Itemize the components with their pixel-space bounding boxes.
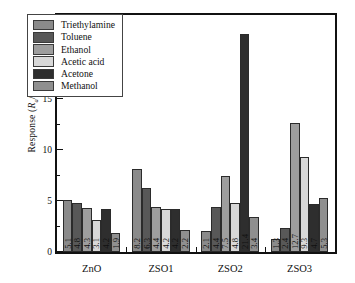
- bar-value-label: 2.4: [280, 238, 290, 249]
- legend-swatch-icon: [33, 69, 54, 80]
- bar-zso3-ethanol: 12.7: [290, 123, 300, 252]
- bar-zno-toluene: 4.8: [72, 203, 82, 252]
- y-tick-label: 10: [43, 145, 53, 155]
- x-axis-label-zso2: ZSO2: [218, 263, 243, 274]
- bar-zso3-methanol: 5.3: [319, 198, 329, 252]
- legend-item-ethanol: Ethanol: [33, 43, 115, 55]
- x-axis-label-zso1: ZSO1: [148, 263, 173, 274]
- bar-value-label: 8.2: [132, 238, 142, 249]
- bar-zso1-toluene: 6.3: [142, 188, 152, 252]
- bar-value-label: 2.1: [201, 238, 211, 249]
- bar-group-zso1: 8.26.34.44.24.22.2ZSO1: [126, 15, 195, 252]
- bar-value-label: 4.7: [309, 238, 319, 249]
- bar-value-label: 1.9: [111, 238, 121, 249]
- bar-value-label: 4.8: [72, 238, 82, 249]
- bar-value-label: 9.3: [299, 238, 309, 249]
- bar-zso2-acetic-acid: 4.8: [230, 203, 240, 252]
- bar-zso2-ethanol: 7.5: [221, 176, 231, 252]
- legend-item-methanol: Methanol: [33, 80, 115, 92]
- bar-group-zso3: 1.32.412.79.34.75.3ZSO3: [265, 15, 334, 252]
- bar-zso3-triethylamine: 1.3: [271, 239, 281, 252]
- legend-label: Acetic acid: [61, 57, 104, 67]
- bar-zso3-acetone: 4.7: [309, 204, 319, 252]
- bar-zso1-methanol: 2.2: [180, 230, 190, 252]
- bar-group-zso2: 2.14.47.54.821.43.4ZSO2: [196, 15, 265, 252]
- bar-zno-acetone: 4.2: [101, 209, 111, 252]
- x-axis-label-zso3: ZSO3: [287, 263, 312, 274]
- bar-value-label: 3.1: [91, 238, 101, 249]
- bar-value-label: 4.8: [230, 238, 240, 249]
- legend-label: Ethanol: [61, 45, 91, 55]
- bar-value-label: 5.3: [319, 238, 329, 249]
- legend-label: Triethylamine: [61, 20, 115, 30]
- legend-swatch-icon: [33, 20, 54, 31]
- legend-item-acetic-acid: Acetic acid: [33, 56, 115, 68]
- bar-value-label: 4.4: [151, 238, 161, 249]
- bar-zso3-toluene: 2.4: [280, 228, 290, 252]
- bar-zso3-acetic-acid: 9.3: [300, 157, 310, 252]
- bar-chart-figure: Response (Ra/Rg) 05101520 5.14.84.33.14.…: [0, 0, 355, 283]
- bar-value-label: 3.4: [249, 238, 259, 249]
- legend-label: Methanol: [61, 81, 98, 91]
- legend-swatch-icon: [33, 44, 54, 55]
- legend-swatch-icon: [33, 81, 54, 92]
- x-axis-label-zno: ZnO: [82, 263, 101, 274]
- bar-zso1-acetone: 4.2: [171, 209, 181, 252]
- bar-zno-acetic-acid: 3.1: [92, 220, 102, 252]
- bar-zno-methanol: 1.9: [111, 233, 121, 252]
- legend-item-toluene: Toluene: [33, 31, 115, 43]
- bar-zso1-triethylamine: 8.2: [132, 169, 142, 252]
- bar-value-label: 4.2: [101, 238, 111, 249]
- y-tick-label: 5: [47, 196, 52, 206]
- bar-value-label: 7.5: [220, 238, 230, 249]
- bar-zso1-ethanol: 4.4: [151, 207, 161, 252]
- legend-swatch-icon: [33, 32, 54, 43]
- legend-item-triethylamine: Triethylamine: [33, 19, 115, 31]
- bar-value-label: 2.2: [180, 238, 190, 249]
- bar-zso2-acetone: 21.4: [240, 34, 250, 252]
- legend-label: Toluene: [61, 32, 92, 42]
- chart-legend: TriethylamineTolueneEthanolAcetic acidAc…: [27, 14, 123, 97]
- legend-item-acetone: Acetone: [33, 68, 115, 80]
- y-tick-label: 0: [47, 247, 52, 257]
- bar-zso2-methanol: 3.4: [249, 217, 259, 252]
- bar-zno-triethylamine: 5.1: [63, 200, 73, 252]
- bar-zso2-triethylamine: 2.1: [201, 231, 211, 252]
- legend-swatch-icon: [33, 56, 54, 67]
- bar-value-label: 4.2: [170, 238, 180, 249]
- legend-label: Acetone: [61, 69, 93, 79]
